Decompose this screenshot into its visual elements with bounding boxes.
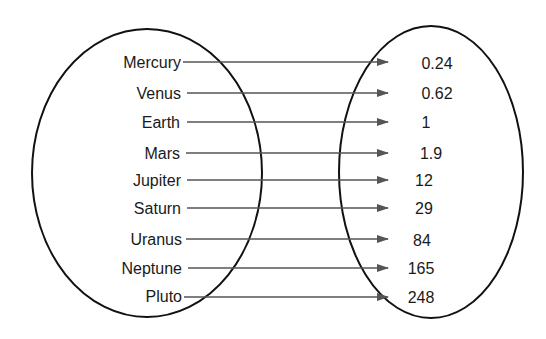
mapping-row: Mercury 0.24 (123, 54, 452, 72)
value-label: 248 (408, 289, 435, 306)
mapping-row: Uranus 84 (130, 231, 431, 249)
value-label: 12 (415, 172, 433, 189)
mapping-row: Neptune 165 (122, 260, 435, 277)
value-label: 1.9 (420, 145, 442, 162)
mapping-row: Mars 1.9 (144, 145, 442, 162)
planet-label: Uranus (130, 231, 182, 248)
planet-label: Mercury (123, 54, 181, 71)
mapping-row: Earth 1 (142, 114, 431, 131)
value-label: 0.62 (421, 85, 452, 102)
planet-label: Jupiter (133, 172, 182, 189)
planet-label: Pluto (146, 288, 183, 305)
value-label: 1 (422, 114, 431, 131)
mapping-row: Saturn 29 (134, 200, 433, 217)
mapping-row: Venus 0.62 (137, 85, 453, 102)
planet-label: Saturn (134, 200, 181, 217)
mapping-row: Jupiter 12 (133, 172, 433, 189)
mapping-diagram: Mercury 0.24 Venus 0.62 Earth 1 Mars 1.9… (0, 0, 546, 339)
value-label: 84 (413, 232, 431, 249)
value-label: 29 (415, 200, 433, 217)
planet-label: Neptune (122, 260, 183, 277)
value-label: 165 (408, 260, 435, 277)
planet-label: Mars (144, 145, 180, 162)
planet-label: Venus (137, 85, 181, 102)
value-label: 0.24 (421, 55, 452, 72)
planet-label: Earth (142, 114, 180, 131)
